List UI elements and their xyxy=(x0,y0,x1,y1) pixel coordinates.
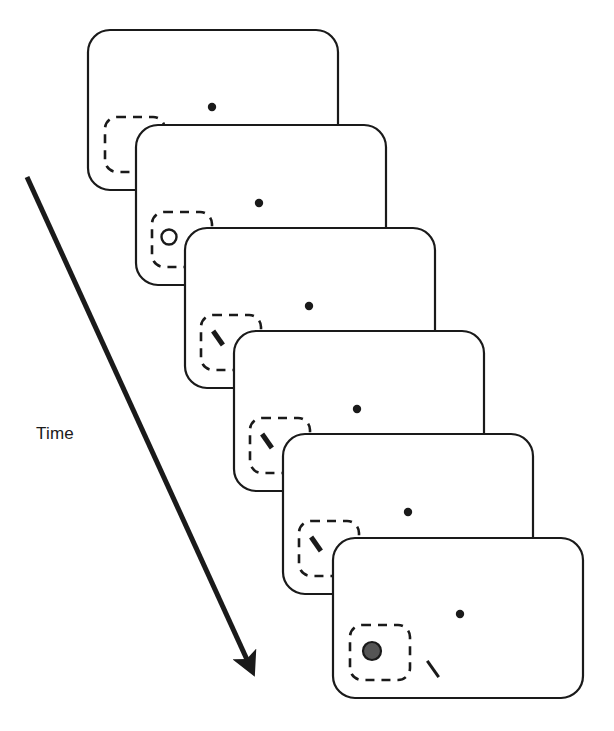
diagram-vector-layer xyxy=(0,0,614,731)
fixation-dot xyxy=(208,103,216,111)
fixation-dot xyxy=(456,610,464,618)
fixation-dot xyxy=(404,508,412,516)
fixation-dot xyxy=(255,199,263,207)
figure-canvas: Time xyxy=(0,0,614,731)
open-circle-placeholder xyxy=(162,230,177,245)
fixation-dot xyxy=(305,302,313,310)
fixation-dot xyxy=(353,405,361,413)
gray-probe-disc xyxy=(363,642,381,660)
panel-probe-response xyxy=(333,538,583,698)
stimulus-panel-frame xyxy=(333,538,583,698)
panel-stack xyxy=(88,30,583,698)
time-axis-label: Time xyxy=(36,424,74,444)
